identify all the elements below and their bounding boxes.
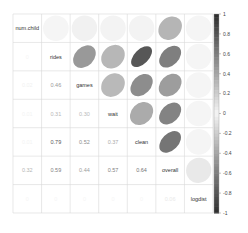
colorbar-segment — [214, 104, 219, 108]
colorbar-tick-label: 1 — [223, 11, 226, 17]
correlation-value: 0.32 — [22, 167, 33, 173]
colorbar-segment — [214, 87, 219, 91]
variable-label: num.child — [16, 25, 40, 31]
correlation-value: 0.44 — [79, 167, 90, 173]
colorbar-segment — [214, 80, 219, 84]
colorbar-segment — [214, 100, 219, 104]
variable-label: games — [76, 82, 93, 88]
colorbar-segment — [214, 54, 219, 58]
correlation-value: 0.57 — [108, 167, 119, 173]
colorbar-segment — [214, 163, 219, 167]
colorbar-tick-label: -0.8 — [223, 190, 232, 196]
correlation-ellipse — [155, 41, 185, 71]
correlation-ellipse — [96, 68, 129, 101]
colorbar-segment — [214, 27, 219, 31]
correlation-value: 0.02 — [22, 82, 33, 88]
colorbar-segment — [214, 57, 219, 61]
colorbar-segment — [214, 17, 219, 21]
correlation-value: 0.37 — [108, 139, 119, 145]
colorbar-segment — [214, 41, 219, 45]
colorbar-segment — [214, 190, 219, 194]
colorbar-tick-label: 0.8 — [223, 31, 230, 37]
correlation-ellipse — [38, 10, 74, 46]
colorbar-segment — [214, 123, 219, 127]
colorbar-segment — [214, 140, 219, 144]
colorbar-tick-label: -1 — [223, 210, 228, 216]
colorbar-segment — [214, 44, 219, 48]
colorbar-segment — [214, 84, 219, 88]
correlation-ellipse — [66, 10, 102, 46]
colorbar-segment — [214, 60, 219, 64]
correlation-ellipse — [154, 69, 186, 101]
colorbar-segment — [214, 133, 219, 137]
correlation-value: 0 — [54, 196, 57, 202]
cells: num.child0rides0.020.46games0.010.310.30… — [16, 10, 217, 202]
colorbar-segment — [214, 186, 219, 190]
colorbar-segment — [214, 70, 219, 74]
colorbar-segment — [214, 31, 219, 35]
correlation-ellipse — [181, 153, 217, 189]
colorbar-segment — [214, 94, 219, 98]
correlation-ellipse — [181, 95, 217, 131]
colorbar-segment — [214, 47, 219, 51]
correlation-ellipse — [95, 10, 131, 46]
colorbar-segment — [214, 180, 219, 184]
colorbar-segment — [214, 137, 219, 141]
variable-label: rides — [50, 54, 62, 60]
correlation-value: 0 — [26, 54, 29, 60]
colorbar-segment — [214, 120, 219, 124]
correlation-ellipse — [127, 42, 155, 70]
correlation-value: 0.59 — [50, 167, 61, 173]
correlation-ellipse — [181, 67, 217, 103]
colorbar-segment — [214, 160, 219, 164]
colorbar-segment — [214, 167, 219, 171]
colorbar-segment — [214, 117, 219, 121]
colorbar-segment — [214, 24, 219, 28]
correlation-ellipse — [96, 40, 129, 73]
colorbar-segment — [214, 97, 219, 101]
colorbar-segment — [214, 90, 219, 94]
correlation-value: 0 — [111, 196, 114, 202]
colorbar-segment — [214, 14, 219, 18]
correlation-plot: num.child0rides0.020.46games0.010.310.30… — [0, 0, 248, 233]
correlation-value: 0 — [26, 196, 29, 202]
correlation-ellipse — [155, 98, 186, 129]
colorbar-segment — [214, 150, 219, 154]
colorbar-tick-label: -0.2 — [223, 130, 232, 136]
colorbar-segment — [214, 50, 219, 54]
correlation-value: 0.01 — [22, 111, 33, 117]
colorbar-segment — [214, 130, 219, 134]
colorbar-segment — [214, 173, 219, 177]
colorbar-segment — [214, 203, 219, 207]
correlation-value: 0 — [140, 196, 143, 202]
colorbar-segment — [214, 206, 219, 210]
colorbar-segment — [214, 110, 219, 114]
correlation-value: 0.46 — [50, 82, 61, 88]
colorbar-segment — [214, 196, 219, 200]
colorbar-segment — [214, 114, 219, 118]
variable-label: overall — [162, 167, 178, 173]
correlation-value: 0.30 — [79, 111, 90, 117]
correlation-ellipse — [181, 10, 217, 46]
colorbar-segment — [214, 177, 219, 181]
correlation-ellipse — [69, 41, 101, 73]
colorbar-segment — [214, 77, 219, 81]
correlation-value: 0.52 — [79, 139, 90, 145]
colorbar-segment — [214, 74, 219, 78]
colorbar-segment — [214, 37, 219, 41]
colorbar-tick-label: 0.6 — [223, 51, 230, 57]
colorbar-tick-label: 0 — [223, 110, 226, 116]
colorbar-segment — [214, 64, 219, 68]
colorbar-tick-label: 0.4 — [223, 71, 230, 77]
colorbar: 10.80.60.40.20-0.2-0.4-0.6-0.8-1 — [214, 11, 232, 216]
correlation-value: 0.64 — [136, 167, 147, 173]
variable-label: wait — [107, 111, 118, 117]
correlation-value: 0 — [83, 196, 86, 202]
colorbar-segment — [214, 34, 219, 38]
correlation-value: 0.79 — [50, 139, 61, 145]
variable-label: logdist — [191, 196, 207, 202]
colorbar-segment — [214, 183, 219, 187]
colorbar-segment — [214, 21, 219, 25]
colorbar-tick-label: -0.4 — [223, 150, 232, 156]
correlation-value: 0.06 — [165, 196, 176, 202]
